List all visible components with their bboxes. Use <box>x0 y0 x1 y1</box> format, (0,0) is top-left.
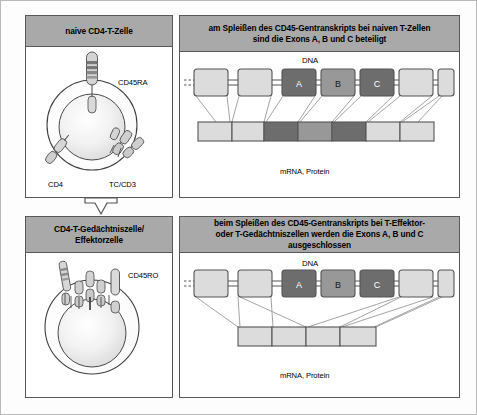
splice-diagram-naive-svg: A B C <box>180 52 458 157</box>
svg-text:A: A <box>296 280 302 290</box>
cd45ra-label: CD45RA <box>118 78 147 87</box>
dna-label-naive: DNA <box>302 56 318 65</box>
svg-text:A: A <box>296 79 302 89</box>
splice-diagram-memory-svg: A B C <box>180 253 458 358</box>
cd45ro-label: CD45RO <box>128 271 158 280</box>
panel-naive-header: naive CD4-T-Zelle <box>26 16 172 47</box>
mrna-label-memory: mRNA, Protein <box>280 371 329 380</box>
svg-text:C: C <box>374 79 381 89</box>
panel-memory-effector-cell: CD4-T-Gedächtniszelle/ Effektorzelle <box>25 216 173 398</box>
panel-naive-cd4-t-cell: naive CD4-T-Zelle <box>25 15 173 198</box>
panel-memory-header-line1: CD4-T-Gedächtniszelle/ <box>54 224 144 234</box>
dna-label-memory: DNA <box>302 259 318 268</box>
memory-cell-illustration: CD45RO <box>26 253 172 397</box>
cd45-splicing-figure: naive CD4-T-Zelle <box>0 0 477 415</box>
cd45ro-receptor <box>111 269 120 313</box>
splicing-memory-diagram: DNA <box>180 253 459 397</box>
splicing-memory-header-line2: oder T-Gedächtniszellen werden die Exons… <box>215 229 423 250</box>
cd4-label: CD4 <box>48 180 63 189</box>
panel-memory-header: CD4-T-Gedächtniszelle/ Effektorzelle <box>26 217 172 253</box>
panel-splicing-naive: am Spleißen des CD45-Gentranskripts bei … <box>179 15 460 198</box>
tcr-cd3-label: TC/CD3 <box>109 180 136 189</box>
panel-splicing-memory-header: beim Spleißen des CD45-Gentranskripts be… <box>180 217 459 253</box>
panel-splicing-memory: beim Spleißen des CD45-Gentranskripts be… <box>179 216 460 398</box>
cd45ra-receptor <box>87 52 98 113</box>
transition-arrow-cells <box>83 197 119 217</box>
splicing-memory-header-line1: beim Spleißen des CD45-Gentranskripts be… <box>214 218 425 228</box>
splicing-naive-header-line1: am Spleißen des CD45-Gentranskripts bei … <box>209 23 431 33</box>
svg-text:B: B <box>335 280 341 290</box>
splicing-naive-header-line2: sind die Exons A, B und C beteiligt <box>253 34 387 44</box>
splicing-naive-diagram: DNA <box>180 52 459 197</box>
svg-text:B: B <box>335 79 341 89</box>
panel-memory-header-line2: Effektorzelle <box>75 235 123 245</box>
panel-splicing-naive-header: am Spleißen des CD45-Gentranskripts bei … <box>180 16 459 52</box>
naive-cell-illustration: CD45RA CD4 TC/CD3 <box>26 47 172 197</box>
svg-text:C: C <box>374 280 381 290</box>
mrna-label-naive: mRNA, Protein <box>280 167 329 176</box>
